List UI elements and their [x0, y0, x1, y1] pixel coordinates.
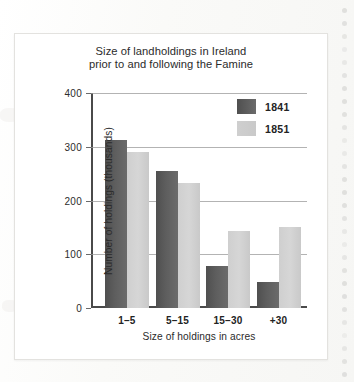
y-tick-label: 100 [64, 249, 82, 260]
y-tick-label: 200 [64, 195, 82, 206]
chart-title-line-1: Size of landholdings in Ireland [15, 45, 327, 58]
legend-swatch-1851 [237, 121, 256, 136]
legend-item-1841: 1841 [237, 99, 290, 114]
y-axis-title: Number of holdings (thousands) [103, 127, 114, 275]
y-tick-mark [86, 308, 91, 309]
legend-swatch-1841 [237, 99, 256, 114]
chart-title-line-2: prior to and following the Famine [15, 58, 327, 71]
page-perforation-dots [338, 0, 350, 382]
chart-title: Size of landholdings in Ireland prior to… [15, 45, 327, 72]
plot-area: 4003002001000 1–55–1515–30+30 1841 1851 … [91, 93, 307, 308]
chart-card: Size of landholdings in Ireland prior to… [14, 33, 328, 360]
bar-1851-15–30 [228, 231, 250, 308]
chart-legend: 1841 1851 [237, 99, 290, 143]
x-tick-label: +30 [270, 315, 288, 326]
x-tick-label: 5–15 [166, 315, 189, 326]
legend-item-1851: 1851 [237, 121, 290, 136]
bar-1851-5–15 [178, 183, 200, 308]
bar-1841-+30 [257, 282, 279, 308]
legend-label-1841: 1841 [265, 101, 290, 113]
y-tick-label: 400 [64, 88, 82, 99]
bar-1841-5–15 [156, 171, 178, 308]
x-tick-label: 1–5 [118, 315, 135, 326]
y-tick-label: 0 [76, 303, 82, 314]
x-tick-label: 15–30 [214, 315, 243, 326]
bar-1851-+30 [279, 227, 301, 308]
bar-1841-15–30 [206, 266, 228, 308]
x-axis-title: Size of holdings in acres [91, 331, 307, 342]
bar-1851-1–5 [127, 152, 149, 308]
y-tick-label: 300 [64, 141, 82, 152]
legend-label-1851: 1851 [265, 123, 290, 135]
